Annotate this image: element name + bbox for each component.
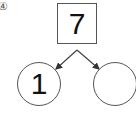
left-part-value: 1 xyxy=(31,67,48,101)
left-part-circle: 1 xyxy=(17,62,61,106)
right-part-circle[interactable] xyxy=(93,62,136,106)
